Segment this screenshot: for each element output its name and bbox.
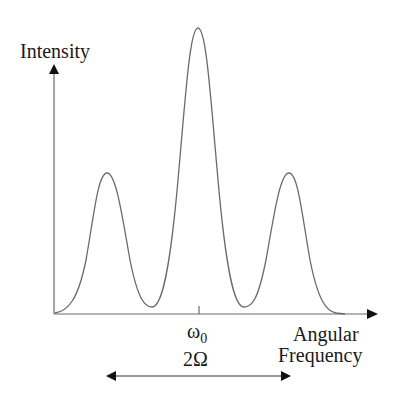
span-double-arrow <box>106 371 291 381</box>
span-label: 2Ω <box>183 348 208 370</box>
center-frequency-label: ω0 <box>187 320 207 346</box>
x-axis-label-line1: Angular <box>293 323 359 346</box>
spectrum-curve <box>55 28 345 314</box>
span-right-arrowhead-icon <box>281 371 291 381</box>
y-axis-arrowhead-icon <box>49 64 59 74</box>
x-axis-arrowhead-icon <box>367 309 378 319</box>
y-axis <box>49 64 59 314</box>
x-axis-label-line2: Frequency <box>278 344 362 367</box>
y-axis-label: Intensity <box>20 40 90 63</box>
span-left-arrowhead-icon <box>106 371 116 381</box>
spectrum-diagram: Intensity Angular Frequency ω0 2Ω <box>0 0 396 401</box>
